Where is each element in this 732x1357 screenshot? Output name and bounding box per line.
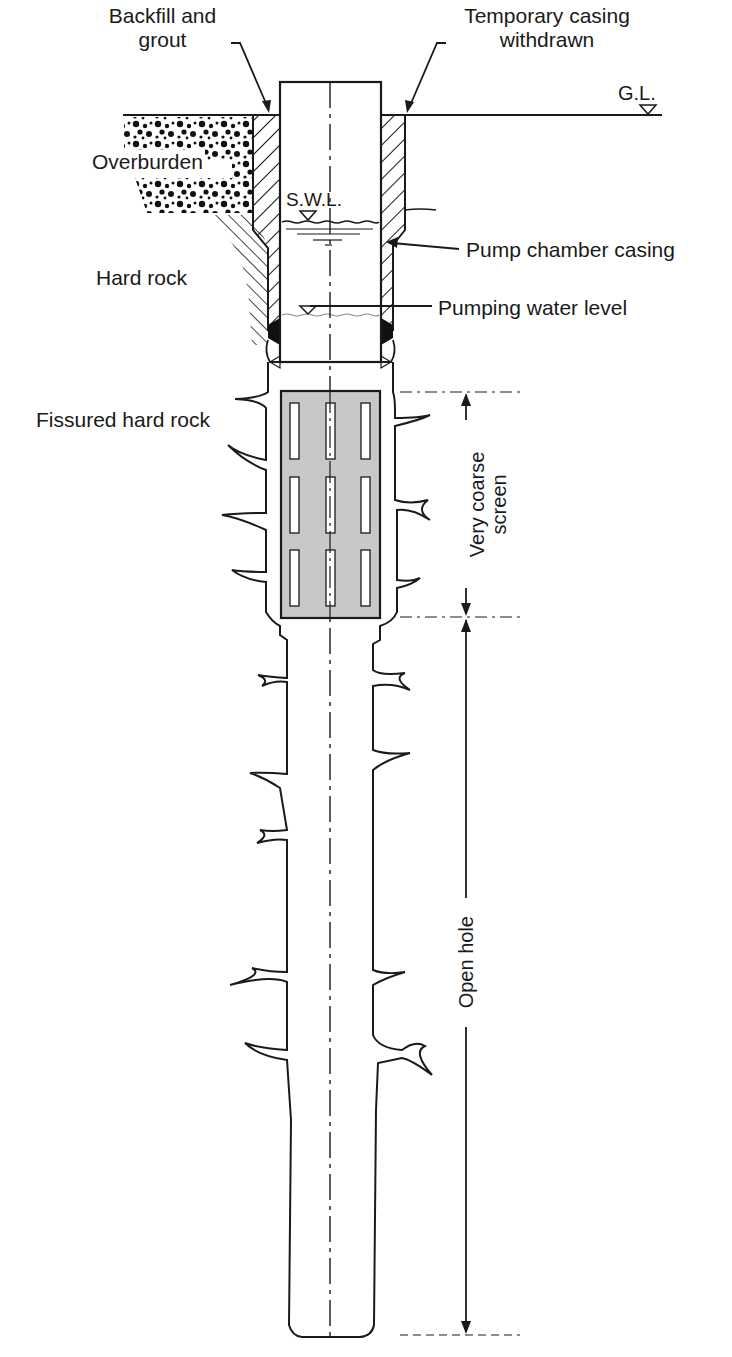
label-pump-chamber-casing: Pump chamber casing	[466, 238, 675, 262]
label-overburden: Overburden	[90, 150, 205, 174]
label-temporary-casing: Temporary casing withdrawn	[447, 4, 647, 51]
label-backfill-line1: Backfill and	[95, 4, 230, 28]
label-backfill-grout: Backfill and grout	[95, 4, 230, 51]
label-screen-line1: Very coarse	[466, 439, 488, 569]
leader-backfill	[231, 43, 271, 113]
label-temporary-casing-line1: Temporary casing	[447, 4, 647, 28]
well-cross-section-diagram	[0, 0, 732, 1357]
label-hard-rock: Hard rock	[96, 266, 187, 290]
ground-level-line	[123, 105, 662, 115]
label-backfill-line2: grout	[95, 28, 230, 52]
label-ground-level: G.L.	[618, 82, 656, 104]
label-static-water-level: S.W.L.	[286, 189, 342, 210]
leader-pump-chamber-casing	[386, 237, 459, 249]
label-open-hole: Open hole	[455, 912, 477, 1012]
leader-temporary-casing	[405, 43, 446, 113]
backfill-grout-right	[381, 115, 436, 345]
label-very-coarse-screen: Very coarse screen	[466, 439, 511, 569]
label-screen-line2: screen	[488, 439, 510, 569]
very-coarse-screen	[281, 391, 380, 618]
label-fissured-hard-rock: Fissured hard rock	[36, 408, 210, 432]
label-temporary-casing-line2: withdrawn	[447, 28, 647, 52]
label-pumping-water-level: Pumping water level	[438, 296, 627, 320]
